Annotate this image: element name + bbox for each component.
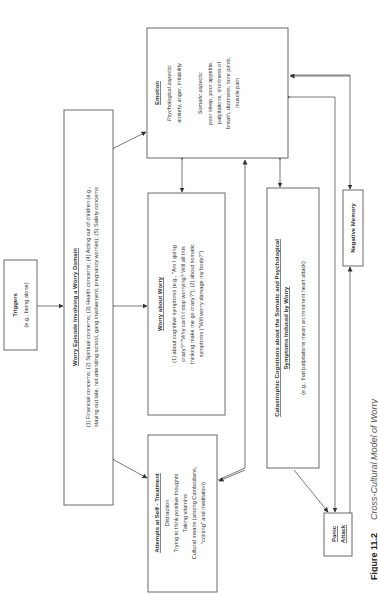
arrow-worry-episode-emotion [114,132,146,148]
emotion-somatic-line: muscle pain [234,78,240,108]
self-treatment-line: "coining" and meditation) [200,482,206,544]
node-negative-memory: Negative Memory [343,190,363,266]
emotion-somatic-line: breath, dizziness, sore joints, [225,56,231,129]
emotion-somatic-line: poor sleep, poor appetite, [207,61,213,125]
worry-model-diagram: Triggers (e.g., being alone) Worry Episo… [0,0,378,595]
emotion-somatic-line: palpitations, shortness of [216,62,222,124]
node-worry-episode: Worry Episode Involving a Worry Domain (… [64,110,113,505]
node-worry-about-worry: Worry about Worry (1) about cognitive sy… [148,193,225,415]
worry-episode-line: (1) Financial concerns; (2) Spiritual co… [85,186,91,427]
catastrophic-title: Catastrophic Cognitions about the Somati… [274,239,280,417]
node-self-treatment: Attempts at Self - Treatment Distraction… [148,435,217,592]
panic-attack-title: Panic [331,525,337,542]
emotion-psych-label: Psychological aspects: [166,64,172,121]
worry-about-worry-title: Worry about Worry [157,276,163,331]
panic-attack-title: Attack [340,524,346,543]
self-treatment-line: Distraction [164,500,170,526]
triggers-title: Triggers [12,293,18,317]
figure-caption: Figure 11.2 Cross-Cultural Model of Worr… [369,398,378,580]
worry-about-worry-line: symptoms ("Will worry damage my body?") [198,251,204,358]
arrow-catastrophic-panic-attack [294,470,328,512]
self-treatment-line: Cultural means (among Cambodians, [191,466,197,559]
worry-about-worry-line: crazy?" "Why can't I stop worrying? Will… [180,246,186,362]
catastrophic-example: (e.g., that palpitations mean an imminen… [300,261,306,395]
node-catastrophic-cognitions: Catastrophic Cognitions about the Somati… [267,188,319,468]
worry-about-worry-line: thinking make me go crazy?"); (2) about … [189,244,195,364]
caption-title: Cross-Cultural Model of Worry [369,398,378,520]
self-treatment-line: Taking vitamins [182,494,188,532]
node-emotion: Emotion Psychological aspects: anxiety, … [147,28,288,158]
worry-about-worry-line: (1) about cognitive symptoms (e.g., "Am … [171,245,177,363]
arrow-emotion-negative-memory [290,75,350,189]
node-panic-attack: Panic Attack [324,513,352,556]
emotion-title: Emotion [154,81,160,105]
triggers-example: (e.g., being alone) [23,282,29,327]
emotion-somatic-label: Somatic aspects: [197,71,203,114]
catastrophic-title: Symptoms Induced by Worry [283,286,289,370]
negative-memory-title: Negative Memory [350,202,356,252]
caption-label: Figure 11.2 [369,533,378,580]
self-treatment-title: Attempts at Self - Treatment [154,473,160,553]
self-treatment-line: Trying to think positive thoughts [173,474,179,553]
worry-episode-title: Worry Episode Involving a Worry Domain [72,248,78,366]
arrow-worry-episode-self-treatment [114,460,147,478]
worry-episode-line: staying out late, not attending school, … [93,187,99,427]
arrow-emotion-self-treatment [219,470,245,481]
emotion-psych-line: anxiety, anger, irritability [176,63,182,123]
node-triggers: Triggers (e.g., being alone) [4,260,37,350]
